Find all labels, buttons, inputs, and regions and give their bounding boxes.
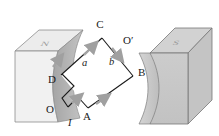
vertex-label-O: O: [46, 103, 54, 115]
vertex-label-D: D: [48, 73, 56, 85]
segment-label-b: b: [109, 56, 114, 67]
physics-figure: N S: [0, 0, 219, 136]
segment-label-a: a: [82, 57, 87, 68]
right-magnet: S: [139, 28, 212, 124]
current-label-I: I: [67, 117, 72, 128]
vertex-label-O-prime: O′: [123, 34, 133, 46]
figure-canvas: N S: [0, 0, 219, 136]
vertex-label-A: A: [83, 110, 91, 122]
vertex-label-C: C: [96, 18, 103, 30]
vertex-label-B: B: [138, 66, 145, 78]
